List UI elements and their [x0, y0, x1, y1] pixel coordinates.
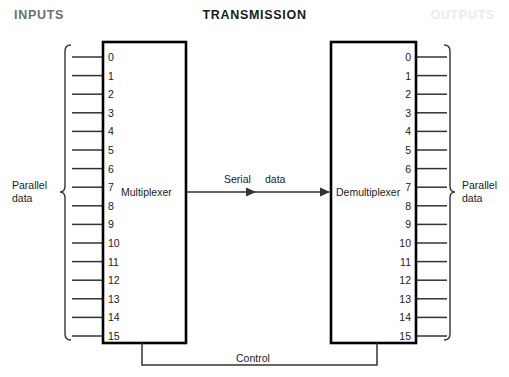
control-label: Control [236, 352, 270, 364]
multiplexer-pin-number: 4 [108, 126, 114, 137]
multiplexer-pin-number: 0 [108, 52, 114, 63]
multiplexer-pin-number: 7 [108, 182, 114, 193]
multiplexer-pin-number: 13 [108, 294, 120, 305]
demultiplexer-pin-number: 4 [386, 126, 411, 137]
multiplexer-label: Multiplexer [121, 186, 172, 198]
demultiplexer-pin-number: 13 [386, 294, 411, 305]
input-pin-lines [72, 57, 104, 336]
multiplexer-pin-number: 12 [108, 275, 120, 286]
demultiplexer-pin-number: 12 [386, 275, 411, 286]
demultiplexer-label: Demultiplexer [336, 186, 400, 198]
multiplexer-pin-number: 8 [108, 201, 114, 212]
multiplexer-pin-number: 3 [108, 108, 114, 119]
multiplexer-pin-number: 10 [108, 238, 120, 249]
demultiplexer-pin-number: 14 [386, 312, 411, 323]
diagram-canvas: INPUTS TRANSMISSION OUTPUTS 012345678910… [0, 0, 509, 377]
demultiplexer-pin-number: 9 [386, 219, 411, 230]
demultiplexer-pin-number: 10 [386, 238, 411, 249]
serial-arrowhead-mid [246, 188, 256, 197]
multiplexer-pin-number: 6 [108, 164, 114, 175]
left-parallel-data-line1: Parallel [12, 179, 47, 192]
multiplexer-pin-number: 9 [108, 219, 114, 230]
multiplexer-pin-number: 15 [108, 331, 120, 342]
right-brace [444, 45, 455, 340]
demultiplexer-pin-number: 3 [386, 108, 411, 119]
demultiplexer-pin-number: 15 [386, 331, 411, 342]
demultiplexer-pin-number: 0 [386, 52, 411, 63]
right-parallel-data-line1: Parallel [462, 179, 497, 192]
left-parallel-data-line2: data [12, 192, 47, 205]
serial-data-label-word1: Serial [224, 173, 251, 185]
demultiplexer-pin-number: 11 [386, 257, 411, 268]
serial-arrowhead-end [320, 188, 330, 197]
output-pin-lines [415, 57, 447, 336]
multiplexer-pin-number: 14 [108, 312, 120, 323]
demultiplexer-pin-number: 2 [386, 89, 411, 100]
right-parallel-data-line2: data [462, 192, 497, 205]
left-brace [60, 45, 71, 340]
diagram-graphics [0, 0, 509, 377]
demultiplexer-pin-number: 8 [386, 201, 411, 212]
multiplexer-pin-number: 5 [108, 145, 114, 156]
multiplexer-pin-number: 2 [108, 89, 114, 100]
demultiplexer-pin-number: 1 [386, 71, 411, 82]
right-parallel-data-label: Parallel data [462, 179, 497, 205]
demultiplexer-pin-number: 5 [386, 145, 411, 156]
left-parallel-data-label: Parallel data [12, 179, 47, 205]
demultiplexer-pin-number: 6 [386, 164, 411, 175]
serial-data-label-word2: data [265, 173, 285, 185]
multiplexer-pin-number: 1 [108, 71, 114, 82]
multiplexer-pin-number: 11 [108, 257, 119, 268]
